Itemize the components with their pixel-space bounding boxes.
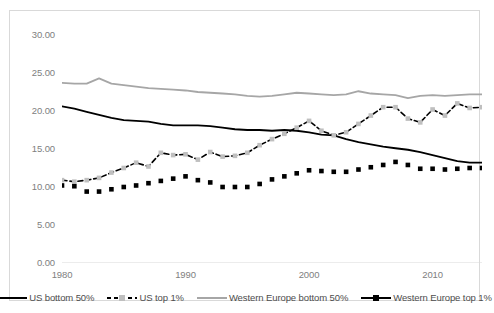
data-point-marker xyxy=(233,154,238,159)
data-point-marker xyxy=(97,189,102,194)
data-point-marker xyxy=(344,170,349,175)
legend-item[interactable]: Western Europe bottom 50% xyxy=(197,292,348,303)
data-point-marker xyxy=(72,184,77,189)
data-point-marker xyxy=(480,105,482,110)
data-point-marker xyxy=(282,132,287,137)
legend-label: Western Europe top 1% xyxy=(393,292,492,303)
series-2 xyxy=(62,101,482,184)
legend-swatch-icon xyxy=(107,293,137,303)
data-point-marker xyxy=(183,152,188,157)
data-point-marker xyxy=(62,178,64,183)
y-axis-tick-label: 25.00 xyxy=(15,68,55,78)
data-point-marker xyxy=(319,128,324,133)
data-point-marker xyxy=(467,166,472,171)
data-point-marker xyxy=(467,106,472,111)
data-point-marker xyxy=(344,130,349,135)
data-point-marker xyxy=(220,154,225,159)
data-point-marker xyxy=(307,119,312,124)
data-point-marker xyxy=(196,157,201,162)
legend-swatch-icon xyxy=(0,293,27,303)
legend-item[interactable]: US top 1% xyxy=(107,292,184,303)
data-point-marker xyxy=(220,185,225,190)
plot-area xyxy=(62,35,482,263)
legend-swatch-icon xyxy=(361,293,391,303)
data-point-marker xyxy=(418,166,423,171)
data-point-marker xyxy=(146,181,151,186)
series-4 xyxy=(62,160,482,194)
data-point-marker xyxy=(84,189,89,194)
data-point-marker xyxy=(294,171,299,176)
data-point-marker xyxy=(430,166,435,171)
data-point-marker xyxy=(331,170,336,175)
data-point-marker xyxy=(134,160,139,165)
data-point-marker xyxy=(196,178,201,183)
y-axis-tick-label: 0.00 xyxy=(15,258,55,268)
data-point-marker xyxy=(356,122,361,127)
data-point-marker xyxy=(418,120,423,125)
y-axis-tick-label: 20.00 xyxy=(15,106,55,116)
data-point-marker xyxy=(393,105,398,110)
legend-label: US bottom 50% xyxy=(29,292,94,303)
data-point-marker xyxy=(443,167,448,172)
legend-label: US top 1% xyxy=(139,292,184,303)
data-point-marker xyxy=(270,137,275,142)
data-point-marker xyxy=(233,185,238,190)
data-point-marker xyxy=(171,153,176,158)
series-line xyxy=(62,78,482,98)
data-point-marker xyxy=(121,166,126,171)
data-point-marker xyxy=(443,113,448,118)
x-axis-tick-label: 2000 xyxy=(284,270,334,280)
data-point-marker xyxy=(208,150,213,155)
data-point-marker xyxy=(480,166,482,171)
x-axis-tick-label: 2010 xyxy=(408,270,458,280)
data-point-marker xyxy=(406,163,411,168)
legend-marker-icon xyxy=(119,295,125,301)
data-point-marker xyxy=(208,180,213,185)
data-point-marker xyxy=(257,143,262,148)
data-point-marker xyxy=(369,165,374,170)
data-point-marker xyxy=(307,168,312,173)
data-point-marker xyxy=(331,133,336,138)
data-point-marker xyxy=(72,179,77,184)
chart-legend: US bottom 50%US top 1%Western Europe bot… xyxy=(10,292,479,303)
data-point-marker xyxy=(356,167,361,172)
y-axis-tick-label: 30.00 xyxy=(15,30,55,40)
y-axis-tick-label: 10.00 xyxy=(15,182,55,192)
data-point-marker xyxy=(455,166,460,171)
data-point-marker xyxy=(369,113,374,118)
data-point-marker xyxy=(109,187,114,192)
y-axis-tick-label: 15.00 xyxy=(15,144,55,154)
data-point-marker xyxy=(430,107,435,112)
series-plot xyxy=(62,35,482,263)
data-point-marker xyxy=(171,176,176,181)
data-point-marker xyxy=(159,179,164,184)
data-point-marker xyxy=(282,174,287,179)
data-point-marker xyxy=(97,176,102,181)
x-axis-tick-label: 1990 xyxy=(161,270,211,280)
data-point-marker xyxy=(245,185,250,190)
legend-marker-icon xyxy=(373,295,379,301)
chart-container: 0.005.0010.0015.0020.0025.0030.00 198019… xyxy=(9,10,480,301)
data-point-marker xyxy=(62,183,64,188)
series-line xyxy=(62,106,482,162)
data-point-marker xyxy=(393,160,398,165)
data-point-marker xyxy=(270,177,275,182)
legend-swatch-icon xyxy=(197,293,227,303)
data-point-marker xyxy=(146,164,151,169)
y-axis-tick-label: 5.00 xyxy=(15,220,55,230)
legend-item[interactable]: US bottom 50% xyxy=(0,292,94,303)
data-point-marker xyxy=(319,169,324,174)
legend-item[interactable]: Western Europe top 1% xyxy=(361,292,492,303)
data-point-marker xyxy=(381,163,386,168)
data-point-marker xyxy=(121,185,126,190)
data-point-marker xyxy=(84,178,89,183)
x-axis-tick-label: 1980 xyxy=(37,270,87,280)
series-3 xyxy=(62,78,482,98)
data-point-marker xyxy=(294,125,299,130)
data-point-marker xyxy=(257,182,262,187)
data-point-marker xyxy=(109,170,114,175)
data-point-marker xyxy=(183,174,188,179)
data-point-marker xyxy=(455,101,460,106)
data-point-marker xyxy=(134,183,139,188)
data-point-marker xyxy=(381,105,386,110)
